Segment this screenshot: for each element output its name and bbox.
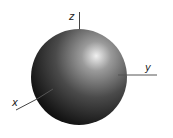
sphere (31, 29, 127, 125)
x-axis-label: x (11, 97, 18, 108)
x-axis (16, 99, 37, 110)
y-axis-label: y (144, 62, 152, 73)
z-axis-label: z (68, 11, 75, 22)
sphere-axes-diagram: z y x (0, 0, 173, 138)
